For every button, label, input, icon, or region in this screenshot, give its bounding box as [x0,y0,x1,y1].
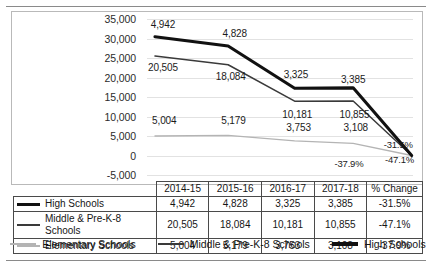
data-point-label: 4,942 [151,19,176,30]
series-lines [147,19,413,175]
data-point-label: 3,385 [341,74,366,85]
data-point-label: 5,179 [221,115,246,126]
percent-change-label: -37.9% [335,157,364,168]
table-cell-value: 20,505 [156,212,209,239]
table-row-label: High Schools [14,197,157,212]
y-axis-tick-label: 25,000 [104,52,136,64]
chart-legend: Elementary SchoolsMiddle & Pre-K-8 Schoo… [13,238,423,250]
data-point-label: 10,181 [282,109,312,120]
legend-label: High Schools [364,238,426,250]
percent-change-label: -31.5% [384,139,413,150]
data-point-label: 18,084 [216,70,246,81]
table-cell-value: 18,084 [209,212,262,239]
legend-label: Elementary Schools [42,238,135,250]
table-cell-percent-change: -31.5% [367,197,423,212]
series-line [155,135,412,155]
title-fragment [6,0,306,5]
data-point-label: 20,505 [148,61,178,72]
series-name: High Schools [45,198,104,210]
series-name: Middle & Pre-K-8 Schools [45,213,153,237]
legend-swatch-icon [332,242,358,245]
table-column-header: 2014-15 [156,182,209,197]
gridline [147,175,413,176]
table-row-label: Middle & Pre-K-8 Schools [14,212,157,239]
table-header-row: 2014-152015-162016-172017-18% Change [14,182,423,197]
legend-item[interactable]: High Schools [332,238,426,250]
data-point-label: 3,753 [286,121,311,132]
table-cell-value: 4,942 [156,197,209,212]
y-axis-tick-label: 15,000 [104,91,136,103]
data-point-label: 3,108 [344,121,369,132]
table-column-header: 2017-18 [314,182,367,197]
y-axis-tick-label: -5,000 [107,169,136,181]
table-corner-cell [14,182,157,197]
plot-area: 4,9424,8283,3253,38520,50518,08410,18110… [147,19,413,175]
table-column-header: 2016-17 [262,182,315,197]
series-swatch-icon [17,224,40,226]
table-row: High Schools4,9424,8283,3253,385-31.5% [14,197,423,212]
table-column-header: 2015-16 [209,182,262,197]
table-cell-value: 3,325 [262,197,315,212]
legend-swatch-icon [158,243,184,245]
chart-page: 35,00030,00025,00020,00015,00010,0005,00… [0,0,432,266]
chart-frame: 35,00030,00025,00020,00015,00010,0005,00… [11,11,423,185]
table-cell-value: 3,385 [314,197,367,212]
bottom-rule [6,260,426,261]
table-column-header: % Change [367,182,423,197]
table-cell-value: 10,855 [314,212,367,239]
data-point-label: 3,325 [284,69,309,80]
y-axis-tick-label: 20,000 [104,72,136,84]
legend-item[interactable]: Elementary Schools [10,238,135,250]
y-axis-tick-label: 5,000 [110,130,136,142]
table-row: Middle & Pre-K-8 Schools20,50518,08410,1… [14,212,423,239]
legend-label: Middle & Pre-K-8 Schools [190,238,310,250]
data-point-label: 5,004 [152,115,177,126]
y-axis-tick-label: 0 [130,150,136,162]
y-axis-tick-label: 35,000 [104,13,136,25]
series-line [155,37,412,156]
table-cell-value: 10,181 [262,212,315,239]
table-cell-percent-change: -47.1% [367,212,423,239]
table-cell-value: 4,828 [209,197,262,212]
legend-swatch-icon [10,243,36,244]
y-axis-labels: 35,00030,00025,00020,00015,00010,0005,00… [20,12,142,186]
y-axis-tick-label: 10,000 [104,111,136,123]
percent-change-label: -47.1% [385,154,414,165]
data-point-label: 10,855 [339,109,369,120]
top-rule [6,6,426,7]
series-swatch-icon [17,203,40,206]
y-axis-tick-label: 30,000 [104,33,136,45]
data-point-label: 4,828 [223,28,248,39]
legend-item[interactable]: Middle & Pre-K-8 Schools [158,238,310,250]
